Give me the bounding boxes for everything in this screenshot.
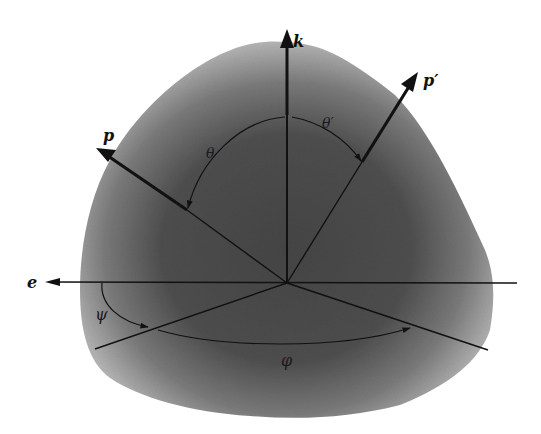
- k-arrowhead-icon: [280, 29, 294, 48]
- p-label: p: [103, 126, 114, 145]
- theta-label: θ: [206, 145, 215, 161]
- e-arrowhead-icon: [45, 278, 60, 286]
- k-label: k: [293, 32, 304, 51]
- p-prime-label: p′: [423, 71, 439, 90]
- e-axis: [50, 282, 517, 283]
- p-prime-arrowhead-icon: [401, 72, 418, 92]
- scattering-diagram: k p′ p e θ θ′ ψ φ: [0, 0, 541, 434]
- theta-prime-label: θ′: [322, 115, 334, 131]
- e-label: e: [27, 273, 37, 292]
- phi-label: φ: [281, 351, 293, 370]
- psi-label: ψ: [95, 305, 108, 324]
